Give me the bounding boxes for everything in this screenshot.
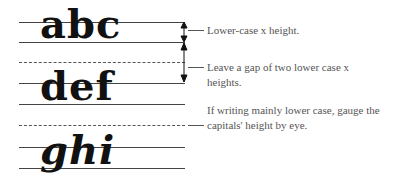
pointer-line-2	[188, 67, 204, 68]
annotation-x-height: Lower-case x height.	[207, 23, 393, 38]
pointer-line-1	[188, 30, 204, 31]
pointer-line-3	[188, 125, 204, 126]
calligraphy-guidelines-diagram: abc def ghi Lower-case x height. Leave a…	[0, 0, 393, 191]
annotation-gap: Leave a gap of two lower case x heights.	[207, 60, 367, 90]
annotation-capitals: If writing mainly lower case, gauge the …	[207, 103, 387, 133]
